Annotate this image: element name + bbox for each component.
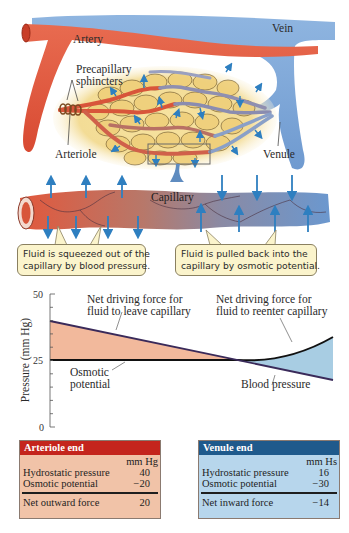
table-total-row: Net inward force −14 <box>199 497 339 508</box>
capillary-label: Capillary <box>151 191 194 203</box>
y-tick-50: 50 <box>33 289 43 300</box>
y-tick-0: 0 <box>39 422 44 433</box>
divider <box>201 492 337 494</box>
row-label: Hydrostatic pressure <box>23 467 110 478</box>
row-value: −20 <box>122 478 156 489</box>
venule-end-header: Venule end <box>199 441 339 455</box>
row-label: Osmotic potential <box>202 478 277 489</box>
precapillary-sphincters-label-line2: sphincters <box>76 75 123 87</box>
annotation-reenter-line1: Net driving force for <box>216 293 311 305</box>
vein-label: Vein <box>272 22 293 34</box>
circulation-illustration <box>0 0 349 285</box>
callout-squeezed-out-line1: Fluid is squeezed out of the <box>23 248 141 260</box>
total-label: Net inward force <box>202 497 273 508</box>
precapillary-sphincters-label-line1: Precapillary <box>76 63 132 75</box>
table-row: Hydrostatic pressure 16 <box>199 467 339 478</box>
y-tick-25: 25 <box>33 355 43 366</box>
table-total-row: Net outward force 20 <box>20 497 160 508</box>
table-row: Osmotic potential −20 <box>20 478 160 489</box>
callout-pulled-back: Fluid is pulled back into the capillary … <box>175 244 317 276</box>
annotation-leave-line1: Net driving force for <box>87 293 182 305</box>
row-label: Hydrostatic pressure <box>202 467 289 478</box>
total-value: −14 <box>301 497 335 508</box>
row-value: 16 <box>301 467 335 478</box>
row-value: −30 <box>301 478 335 489</box>
total-label: Net outward force <box>23 497 99 508</box>
table-row: Hydrostatic pressure 40 <box>20 467 160 478</box>
venule-end-table: Venule end mm Hs Hydrostatic pressure 16… <box>198 440 340 519</box>
divider <box>22 492 158 494</box>
annotation-osmotic-line2: potential <box>70 378 110 390</box>
table-row: Osmotic potential −30 <box>199 478 339 489</box>
annotation-blood-pressure: Blood pressure <box>241 378 310 390</box>
arteriole-unit: mm Hg <box>20 455 160 467</box>
row-label: Osmotic potential <box>23 478 98 489</box>
venule-label: Venule <box>263 148 295 160</box>
total-value: 20 <box>122 497 156 508</box>
arteriole-end-table: Arteriole end mm Hg Hydrostatic pressure… <box>19 440 161 519</box>
y-axis-label: Pressure (mm Hg) <box>19 305 31 415</box>
callout-squeezed-out-line2: capillary by blood pressure. <box>23 260 141 272</box>
callout-pulled-back-line1: Fluid is pulled back into the <box>181 248 312 260</box>
row-value: 40 <box>122 467 156 478</box>
annotation-reenter-line2: fluid to reenter capillary <box>216 305 327 317</box>
venule-unit: mm Hs <box>199 455 339 467</box>
annotation-leave-line2: fluid to leave capillary <box>87 305 191 317</box>
artery-label: Artery <box>73 33 103 45</box>
arteriole-label: Arteriole <box>55 148 97 160</box>
annotation-osmotic-line1: Osmotic <box>70 366 109 378</box>
callout-squeezed-out: Fluid is squeezed out of the capillary b… <box>17 244 146 276</box>
callout-pulled-back-line2: capillary by osmotic potential. <box>181 260 312 272</box>
arteriole-end-header: Arteriole end <box>20 441 160 455</box>
